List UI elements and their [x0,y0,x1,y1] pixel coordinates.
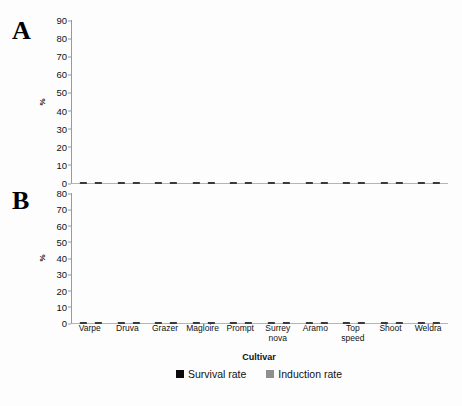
bar-group [298,20,336,183]
bar-group [260,193,298,323]
legend-label: Induction rate [278,368,342,380]
x-tick-label: Surreynova [259,323,297,343]
y-tick-label: 80 [56,188,67,199]
bar-group [147,193,185,323]
bar-groups-a [72,20,448,183]
y-tick-label: 50 [56,87,67,98]
bar-group [110,20,148,183]
x-tick-label: Weldra [409,323,447,343]
legend-item-survival[interactable]: Survival rate [176,368,246,380]
bar-group [222,193,260,323]
y-tick-mark [68,20,71,21]
y-tick-label: 40 [56,105,67,116]
y-tick-mark [68,74,71,75]
y-tick-label: 20 [56,141,67,152]
bar-group [110,193,148,323]
bar-group [410,193,448,323]
panel-a: % 0102030405060708090 [0,0,462,186]
x-tick-label: Shoot [372,323,410,343]
y-tick-mark [68,307,71,308]
y-tick-label: 0 [62,318,67,329]
y-tick-mark [68,226,71,227]
y-tick-label: 40 [56,253,67,264]
x-tick-label: Druva [109,323,147,343]
figure-canvas: A B % 0102030405060708090 % 010203040506… [0,0,462,406]
y-tick-label: 70 [56,51,67,62]
y-axis-label-a: % [38,98,47,105]
y-tick-label: 70 [56,204,67,215]
bar-group [335,20,373,183]
y-tick-label: 30 [56,269,67,280]
y-tick-label: 60 [56,69,67,80]
y-tick-label: 30 [56,123,67,134]
plot-area-b: % 01020304050607080 [71,193,448,324]
x-tick-label: Topspeed [334,323,372,343]
x-axis-tick-labels: VarpeDruvaGrazerMagloirePromptSurreynova… [71,323,447,343]
x-tick-label: Varpe [71,323,109,343]
y-tick-mark [68,274,71,275]
bar-group [410,20,448,183]
bar-group [222,20,260,183]
y-tick-label: 10 [56,159,67,170]
legend: Survival rateInduction rate [71,368,447,380]
y-tick-label: 50 [56,236,67,247]
legend-swatch-induction [266,370,274,378]
y-tick-mark [68,193,71,194]
x-tick-label: Grazer [146,323,184,343]
y-tick-label: 90 [56,15,67,26]
bar-group [72,193,110,323]
y-axis-label-b: % [38,254,47,261]
y-tick-mark [68,258,71,259]
bar-group [147,20,185,183]
legend-item-induction[interactable]: Induction rate [266,368,342,380]
panel-b: % 01020304050607080 [0,186,462,334]
y-tick-label: 80 [56,33,67,44]
x-axis-title: Cultivar [71,352,447,362]
bar-group [335,193,373,323]
bar-group [185,193,223,323]
bar-group [298,193,336,323]
x-tick-label: Prompt [221,323,259,343]
bar-group [373,20,411,183]
plot-area-a: % 0102030405060708090 [71,20,448,184]
y-tick-label: 60 [56,220,67,231]
y-tick-label: 10 [56,301,67,312]
x-tick-label: Magloire [184,323,222,343]
y-tick-mark [68,291,71,292]
y-tick-mark [68,242,71,243]
x-tick-label: Aramo [297,323,335,343]
bar-group [260,20,298,183]
y-tick-mark [68,56,71,57]
y-tick-mark [68,147,71,148]
legend-swatch-survival [176,370,184,378]
legend-label: Survival rate [188,368,246,380]
y-tick-mark [68,129,71,130]
y-tick-mark [68,165,71,166]
bar-groups-b [72,193,448,323]
y-tick-mark [68,38,71,39]
y-tick-mark [68,209,71,210]
y-tick-mark [68,111,71,112]
y-tick-mark [68,92,71,93]
y-tick-mark [68,183,71,184]
bar-group [373,193,411,323]
bar-group [72,20,110,183]
bar-group [185,20,223,183]
y-tick-label: 20 [56,285,67,296]
